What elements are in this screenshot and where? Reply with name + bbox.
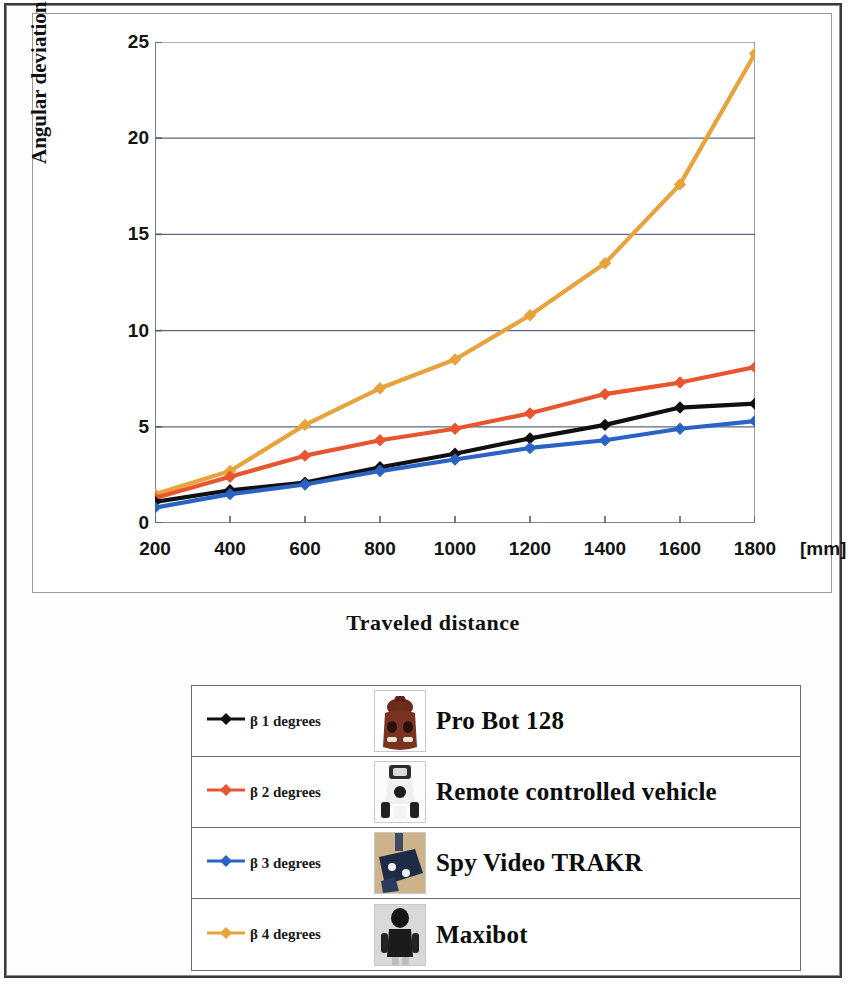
legend-key-label-beta3: β 3 degrees [250, 855, 321, 872]
legend-key-label-beta2: β 2 degrees [250, 784, 321, 801]
legend-key-label-beta4: β 4 degrees [250, 926, 321, 943]
x-tick-800: 800 [340, 538, 420, 560]
x-axis-title: Traveled distance [33, 610, 833, 636]
x-tick-1800: 1800 [715, 538, 795, 560]
legend-device-name-pro-bot-128: Pro Bot 128 [436, 707, 564, 735]
plot-area [155, 42, 755, 523]
legend-key-label-beta1: β 1 degrees [250, 713, 321, 730]
y-tick-25: 25 [103, 31, 149, 53]
legend-device-name-maxibot: Maxibot [436, 921, 528, 949]
line-marker-icon-beta1 [206, 711, 246, 731]
y-tick-10: 10 [103, 320, 149, 342]
x-tick-1400: 1400 [565, 538, 645, 560]
spy-video-trakr-photo [374, 832, 426, 894]
x-axis-tick-labels: 200 400 600 800 1000 1200 1400 1600 1800… [155, 538, 851, 568]
legend-device-name-spy-video-trakr: Spy Video TRAKR [436, 849, 643, 877]
y-axis-title: Angular deviation [27, 0, 52, 164]
y-tick-20: 20 [103, 127, 149, 149]
legend-table: β 1 degrees Pro Bot 128 [191, 685, 801, 971]
chart-figure: Angular deviation 25 20 15 10 5 0 200 40… [32, 13, 832, 593]
line-marker-icon-beta2 [206, 782, 246, 802]
legend-row-remote-controlled-vehicle[interactable]: β 2 degrees Remote controlled vehicle [192, 757, 800, 828]
legend-key-beta3: β 3 degrees [192, 853, 374, 873]
legend-key-beta4: β 4 degrees [192, 925, 374, 945]
y-tick-0: 0 [103, 512, 149, 534]
y-tick-15: 15 [103, 223, 149, 245]
legend-row-maxibot[interactable]: β 4 degrees Maxibot [192, 899, 800, 970]
y-axis-tick-labels: 25 20 15 10 5 0 [85, 42, 149, 523]
pro-bot-128-photo [374, 690, 426, 752]
x-tick-1600: 1600 [640, 538, 720, 560]
series-plot-svg [155, 42, 755, 523]
remote-controlled-vehicle-photo [374, 761, 426, 823]
legend-row-pro-bot-128[interactable]: β 1 degrees Pro Bot 128 [192, 686, 800, 757]
x-axis-unit: [mm] [800, 538, 846, 560]
x-tick-400: 400 [190, 538, 270, 560]
x-tick-1000: 1000 [415, 538, 495, 560]
legend-key-beta1: β 1 degrees [192, 711, 374, 731]
line-marker-icon-beta4 [206, 925, 246, 945]
legend-row-spy-video-trakr[interactable]: β 3 degrees Spy Video TRAKR [192, 828, 800, 899]
x-tick-200: 200 [115, 538, 195, 560]
maxibot-photo [374, 904, 426, 966]
scanned-page-frame: Angular deviation 25 20 15 10 5 0 200 40… [4, 3, 842, 978]
line-marker-icon-beta3 [206, 853, 246, 873]
y-tick-5: 5 [103, 416, 149, 438]
legend-device-name-remote-controlled-vehicle: Remote controlled vehicle [436, 778, 717, 806]
legend-key-beta2: β 2 degrees [192, 782, 374, 802]
x-tick-1200: 1200 [490, 538, 570, 560]
x-tick-600: 600 [265, 538, 345, 560]
